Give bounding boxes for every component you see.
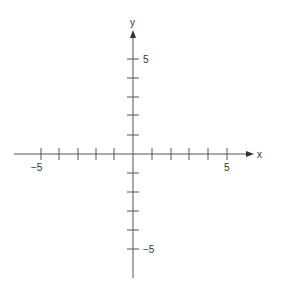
y-axis-label: y bbox=[130, 17, 135, 28]
x-tick-label-neg5: −5 bbox=[31, 162, 43, 173]
y-axis-arrow-icon bbox=[130, 30, 136, 38]
coordinate-plane: x y −5 5 5 −5 bbox=[0, 0, 281, 297]
y-tick-label-pos5: 5 bbox=[143, 54, 149, 65]
x-axis-arrow-icon bbox=[246, 151, 254, 157]
y-tick-label-neg5: −5 bbox=[143, 244, 155, 255]
x-axis-label: x bbox=[257, 149, 262, 160]
x-tick-label-pos5: 5 bbox=[224, 162, 230, 173]
